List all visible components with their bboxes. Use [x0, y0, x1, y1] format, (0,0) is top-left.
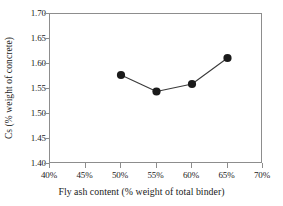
- y-axis-tick-mark: [44, 113, 49, 114]
- x-axis-tick-mark: [191, 163, 192, 168]
- chart-figure: Cs (% weight of concrete) 1.401.451.501.…: [0, 0, 283, 206]
- x-axis-tick-mark: [85, 163, 86, 168]
- data-point-marker: [223, 54, 231, 62]
- y-axis-tick-label: 1.65: [20, 33, 46, 43]
- x-axis-title: Fly ash content (% weight of total binde…: [0, 186, 283, 198]
- y-axis-tick-label: 1.45: [20, 133, 46, 143]
- y-axis-tick-mark: [44, 13, 49, 14]
- data-point-marker: [117, 71, 125, 79]
- plot-area: [49, 13, 262, 163]
- x-axis-tick-label: 50%: [105, 170, 135, 181]
- y-axis-tick-mark: [44, 38, 49, 39]
- y-axis-title: Cs (% weight of concrete): [2, 8, 16, 168]
- x-axis-tick-mark: [227, 163, 228, 168]
- x-axis-tick-mark: [120, 163, 121, 168]
- x-axis-tick-label: 65%: [212, 170, 242, 181]
- x-axis-tick-label: 55%: [141, 170, 171, 181]
- y-axis-tick-label: 1.40: [20, 158, 46, 168]
- x-axis-tick-label: 40%: [34, 170, 64, 181]
- data-series-line: [121, 58, 228, 92]
- y-axis-tick-label: 1.60: [20, 58, 46, 68]
- x-axis-tick-label: 70%: [247, 170, 277, 181]
- x-axis-tick-mark: [49, 163, 50, 168]
- x-axis-tick-label: 45%: [70, 170, 100, 181]
- y-axis-tick-mark: [44, 138, 49, 139]
- y-axis-tick-mark: [44, 88, 49, 89]
- x-axis-tick-label: 60%: [176, 170, 206, 181]
- y-axis-tick-label: 1.50: [20, 108, 46, 118]
- data-point-marker: [188, 80, 196, 88]
- y-axis-tick-mark: [44, 63, 49, 64]
- x-axis-tick-mark: [156, 163, 157, 168]
- x-axis-tick-mark: [262, 163, 263, 168]
- y-axis-tick-label: 1.55: [20, 83, 46, 93]
- y-axis-tick-label: 1.70: [20, 8, 46, 18]
- plot-svg: [50, 14, 263, 164]
- data-series-markers: [117, 54, 232, 96]
- data-point-marker: [152, 87, 160, 95]
- x-axis-tick-labels: 40%45%50%55%60%65%70%: [0, 170, 283, 182]
